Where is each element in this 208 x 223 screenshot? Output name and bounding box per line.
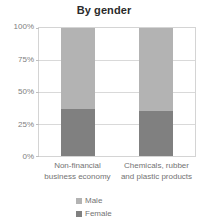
y-axis-tick-label-100: 100% — [0, 23, 34, 31]
plot-area — [38, 27, 196, 157]
bar-group-non-financial-business-economy — [61, 28, 95, 156]
y-axis-tick-label-75: 75% — [0, 56, 34, 64]
x-axis-category-label-2-line-1: Chemicals, rubber — [117, 160, 196, 171]
legend-label-male: Male — [85, 196, 102, 205]
y-axis-tick-label-50: 50% — [0, 88, 34, 96]
y-tick-75 — [36, 60, 39, 61]
bar-segment-female — [61, 109, 95, 156]
bar-segment-male — [61, 28, 95, 109]
x-axis-category-label-1-line-1: Non-financial — [38, 160, 117, 171]
x-axis-category-label-1: Non-financial business economy — [38, 160, 117, 182]
y-axis-tick-label-25: 25% — [0, 121, 34, 129]
legend-label-female: Female — [85, 209, 112, 218]
y-tick-50 — [36, 92, 39, 93]
y-axis: 100% 75% 50% 25% 0% — [0, 27, 34, 157]
legend-item-male: Male — [0, 194, 208, 207]
y-tick-25 — [36, 124, 39, 125]
legend-swatch-female-icon — [76, 211, 82, 217]
bar-segment-male — [139, 28, 173, 111]
chart-title: By gender — [0, 4, 208, 17]
x-axis: Non-financial business economy Chemicals… — [38, 160, 196, 188]
legend: Male Female — [0, 194, 208, 220]
legend-swatch-male-icon — [76, 198, 82, 204]
y-tick-0 — [36, 156, 39, 157]
bar-segment-female — [139, 111, 173, 156]
gender-stacked-bar-chart: By gender 100% 75% 50% 25% 0% Non-financ… — [0, 0, 208, 223]
y-tick-100 — [36, 28, 39, 29]
bar-group-chemicals-rubber-and-plastic-products — [139, 28, 173, 156]
legend-item-female: Female — [0, 207, 208, 220]
x-axis-category-label-2: Chemicals, rubber and plastic products — [117, 160, 196, 182]
x-axis-category-label-1-line-2: business economy — [38, 171, 117, 182]
y-axis-tick-label-0: 0% — [0, 153, 34, 161]
x-axis-category-label-2-line-2: and plastic products — [117, 171, 196, 182]
